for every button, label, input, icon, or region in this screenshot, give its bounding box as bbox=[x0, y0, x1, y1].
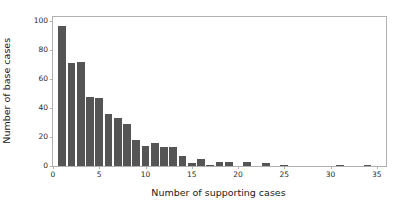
histogram-bar bbox=[114, 118, 122, 166]
x-axis-tick-mark bbox=[99, 166, 100, 169]
histogram-bar bbox=[197, 159, 205, 166]
x-axis-tick-label: 10 bbox=[141, 171, 151, 179]
x-axis-tick-mark bbox=[238, 166, 239, 169]
histogram-bar bbox=[243, 162, 251, 166]
y-axis-tick-label: 20 bbox=[38, 133, 48, 141]
histogram-bar bbox=[58, 26, 66, 166]
histogram-bar bbox=[336, 165, 344, 166]
y-axis-tick-label: 0 bbox=[43, 162, 48, 170]
y-axis-tick-mark bbox=[50, 50, 53, 51]
y-axis-tick-label: 80 bbox=[38, 47, 48, 55]
y-axis-tick-mark bbox=[50, 108, 53, 109]
y-axis-tick-label: 40 bbox=[38, 104, 48, 112]
x-axis-label-text: Number of supporting cases bbox=[151, 187, 285, 198]
x-axis-tick-label: 15 bbox=[187, 171, 197, 179]
chart-figure: Number of base cases 020406080100 051015… bbox=[0, 0, 397, 211]
x-axis-tick-label: 30 bbox=[326, 171, 336, 179]
x-axis-tick-label: 35 bbox=[372, 171, 382, 179]
histogram-bar bbox=[169, 147, 177, 166]
x-axis-tick-label: 25 bbox=[279, 171, 289, 179]
histogram-bar bbox=[179, 156, 187, 166]
chart-axes: 020406080100 05101520253035 bbox=[52, 16, 387, 167]
x-axis-tick-mark bbox=[377, 166, 378, 169]
x-axis-label: Number of supporting cases bbox=[52, 188, 385, 198]
y-axis-tick-mark bbox=[50, 79, 53, 80]
histogram-bar bbox=[68, 63, 76, 166]
histogram-bar bbox=[105, 114, 113, 166]
x-axis-tick-mark bbox=[284, 166, 285, 169]
y-axis-label: Number of base cases bbox=[0, 16, 14, 165]
histogram-bar bbox=[86, 97, 94, 166]
plot-area bbox=[53, 17, 386, 166]
y-axis-tick-label: 100 bbox=[34, 18, 48, 26]
x-axis-tick-mark bbox=[192, 166, 193, 169]
x-axis-tick-label: 0 bbox=[51, 171, 56, 179]
x-axis-tick-mark bbox=[53, 166, 54, 169]
x-axis-tick-label: 20 bbox=[233, 171, 243, 179]
y-axis-tick-mark bbox=[50, 137, 53, 138]
histogram-bar bbox=[206, 165, 214, 166]
x-axis-tick-label: 5 bbox=[97, 171, 102, 179]
histogram-bar bbox=[132, 140, 140, 166]
y-axis-tick-label: 60 bbox=[38, 75, 48, 83]
histogram-bar bbox=[225, 162, 233, 166]
x-axis-tick-mark bbox=[146, 166, 147, 169]
histogram-bar bbox=[151, 143, 159, 166]
histogram-bar bbox=[160, 147, 168, 166]
histogram-bar bbox=[95, 98, 103, 166]
y-axis-label-text: Number of base cases bbox=[2, 38, 12, 144]
histogram-bar bbox=[262, 163, 270, 166]
x-axis-tick-mark bbox=[331, 166, 332, 169]
histogram-bar bbox=[216, 162, 224, 166]
histogram-bar bbox=[77, 62, 85, 166]
y-axis-tick-mark bbox=[50, 21, 53, 22]
histogram-bar bbox=[142, 146, 150, 166]
histogram-bar bbox=[364, 165, 372, 166]
histogram-bar bbox=[123, 124, 131, 166]
